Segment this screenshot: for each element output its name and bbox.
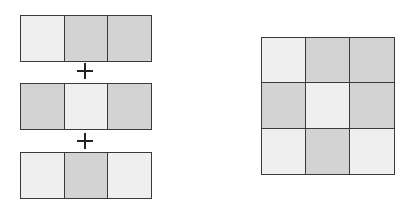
strip-3 <box>20 152 152 199</box>
strip-2 <box>20 83 152 130</box>
strip-1-cell-1 <box>21 16 64 61</box>
strip-3-cell-1 <box>21 153 64 198</box>
grid-cell-3-2 <box>306 129 350 174</box>
plus-icon <box>77 63 93 79</box>
grid-cell-3-1 <box>262 129 306 174</box>
grid-cell-2-2 <box>306 83 350 128</box>
grid-cell-1-3 <box>350 38 394 83</box>
plus-icon <box>77 133 93 149</box>
grid-cell-1-1 <box>262 38 306 83</box>
grid-cell-2-3 <box>350 83 394 128</box>
strip-2-cell-2 <box>64 84 108 129</box>
grid-cell-2-1 <box>262 83 306 128</box>
strip-1-cell-3 <box>107 16 151 61</box>
strip-2-cell-3 <box>107 84 151 129</box>
strip-3-cell-2 <box>64 153 108 198</box>
result-grid <box>261 37 395 175</box>
strip-1-cell-2 <box>64 16 108 61</box>
grid-cell-1-2 <box>306 38 350 83</box>
strip-3-cell-3 <box>107 153 151 198</box>
strip-1 <box>20 15 152 62</box>
grid-cell-3-3 <box>350 129 394 174</box>
strip-2-cell-1 <box>21 84 64 129</box>
